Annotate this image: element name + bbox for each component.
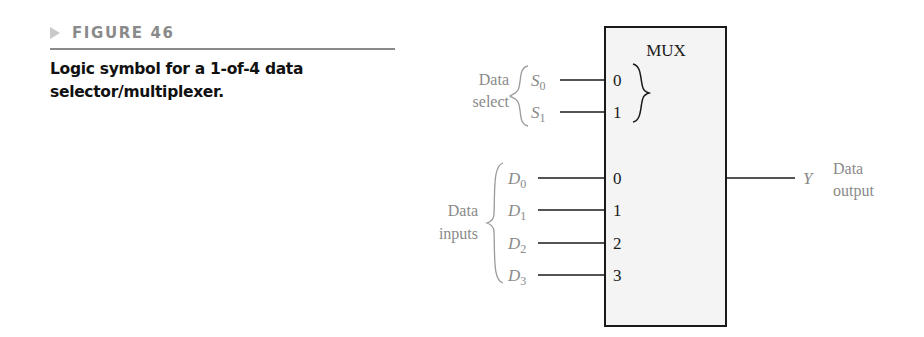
svg-text:0: 0 <box>613 169 622 188</box>
data-group-label-2: inputs <box>439 225 478 243</box>
mux-diagram: MUX Data select S0 0 S1 1 Data inputs D0… <box>0 0 924 337</box>
data-left-brace <box>487 163 503 283</box>
mux-title: MUX <box>646 41 686 60</box>
output-label-1: Data <box>833 160 863 177</box>
select-group-label-2: select <box>473 93 510 110</box>
output-label-2: output <box>833 182 874 200</box>
svg-text:0: 0 <box>613 71 622 90</box>
svg-text:Y: Y <box>803 169 814 188</box>
data-group-label-1: Data <box>448 202 478 219</box>
svg-text:S0: S0 <box>531 71 546 93</box>
svg-text:D0: D0 <box>507 169 526 191</box>
svg-text:1: 1 <box>613 201 622 220</box>
mux-box <box>605 27 726 326</box>
select-left-brace <box>510 66 528 126</box>
svg-text:3: 3 <box>613 266 622 285</box>
svg-text:S1: S1 <box>531 103 546 125</box>
data-output-y: Y Data output <box>726 160 874 200</box>
svg-text:D2: D2 <box>507 234 526 256</box>
svg-text:2: 2 <box>613 234 622 253</box>
svg-text:D3: D3 <box>507 266 526 288</box>
svg-text:1: 1 <box>613 103 622 122</box>
select-group-label-1: Data <box>479 71 509 88</box>
svg-text:D1: D1 <box>507 201 526 223</box>
